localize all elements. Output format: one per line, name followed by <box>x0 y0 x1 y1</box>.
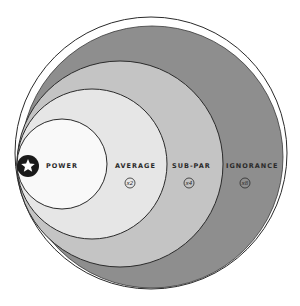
label-power: POWER <box>46 162 78 170</box>
label-subpar: SUB-PAR <box>172 162 211 170</box>
multiplier-subpar: x4 <box>185 180 193 186</box>
multiplier-average: x2 <box>126 180 134 186</box>
multiplier-ignorance: x8 <box>241 180 249 186</box>
star-badge <box>17 155 39 177</box>
nested-circles-diagram: POWER AVERAGE x2 SUB-PAR x4 IGNORANCE x8 <box>0 0 300 306</box>
label-ignorance: IGNORANCE <box>226 162 278 170</box>
label-average: AVERAGE <box>115 162 156 170</box>
